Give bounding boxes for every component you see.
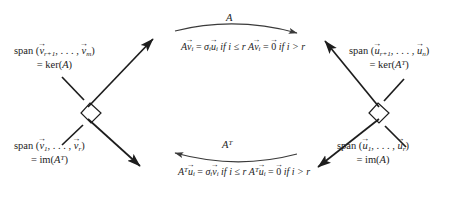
backward-map-label: AT bbox=[222, 139, 232, 150]
vector-accent-icon: → bbox=[186, 161, 194, 169]
vector-accent-icon: → bbox=[257, 161, 265, 169]
vector-accent-icon: → bbox=[396, 135, 404, 143]
label-kernel-A: span (→vr+1, . . . , →vm) = ker(A) bbox=[14, 44, 95, 71]
forward-equation-line-2: A→vi = →0 if i > r bbox=[248, 41, 305, 52]
vector-accent-icon: → bbox=[185, 36, 193, 44]
left-axis-upper-arm bbox=[88, 39, 153, 107]
label-kernel-AT: span (→ur+1, . . . , →un) = ker(AT) bbox=[349, 44, 429, 71]
left-right-angle-marker bbox=[81, 103, 101, 123]
label-image-A: span (→u1, . . . , →ur) = im(A) bbox=[337, 139, 409, 166]
label-image-AT-line2: = im(AT) bbox=[14, 153, 85, 166]
label-kernel-AT-line2: = ker(AT) bbox=[349, 58, 429, 71]
right-axis-upper-tail bbox=[384, 79, 404, 101]
forward-map-equations: A→vi = σi→ui if i ≤ r A→vi = →0 if i > r bbox=[181, 40, 305, 55]
left-axis-upper-tail bbox=[62, 77, 84, 100]
backward-map-equations: AT→ui = σi→vi if i ≤ r AT→ui = →0 if i >… bbox=[178, 165, 310, 180]
vector-accent-icon: → bbox=[252, 36, 260, 44]
label-image-A-line1: span (→u1, . . . , →ur) bbox=[337, 139, 409, 153]
vector-accent-icon: → bbox=[361, 135, 369, 143]
left-axis-lower-arm bbox=[88, 119, 140, 166]
vector-accent-icon: → bbox=[275, 161, 283, 169]
vector-accent-icon: → bbox=[209, 36, 217, 44]
vector-accent-icon: → bbox=[415, 40, 423, 48]
backward-equation-line-2: AT→ui = →0 if i > r bbox=[249, 166, 310, 177]
label-image-AT: span (→v1, . . . , →vr) = im(AT) bbox=[14, 139, 85, 166]
backward-equation-line-1: AT→ui = σi→vi if i ≤ r bbox=[178, 166, 246, 177]
forward-equation-line-1: A→vi = σi→ui if i ≤ r bbox=[181, 41, 246, 52]
label-kernel-AT-line1: span (→ur+1, . . . , →un) bbox=[349, 44, 429, 58]
vector-accent-icon: → bbox=[270, 36, 278, 44]
vector-accent-icon: → bbox=[72, 135, 80, 143]
vector-accent-icon: → bbox=[80, 40, 88, 48]
vector-accent-icon: → bbox=[373, 40, 381, 48]
label-image-AT-line1: span (→v1, . . . , →vr) bbox=[14, 139, 85, 153]
label-kernel-A-line1: span (→vr+1, . . . , →vm) bbox=[14, 44, 95, 58]
label-image-A-line2: = im(A) bbox=[337, 153, 409, 166]
vector-accent-icon: → bbox=[210, 161, 218, 169]
label-kernel-A-line2: = ker(A) bbox=[14, 58, 95, 71]
svd-subspaces-figure: span (→vr+1, . . . , →vm) = ker(A) span … bbox=[0, 0, 468, 204]
vector-accent-icon: → bbox=[38, 135, 46, 143]
vector-accent-icon: → bbox=[38, 40, 46, 48]
forward-map-arrow bbox=[175, 24, 297, 33]
forward-map-label: A bbox=[226, 12, 232, 23]
